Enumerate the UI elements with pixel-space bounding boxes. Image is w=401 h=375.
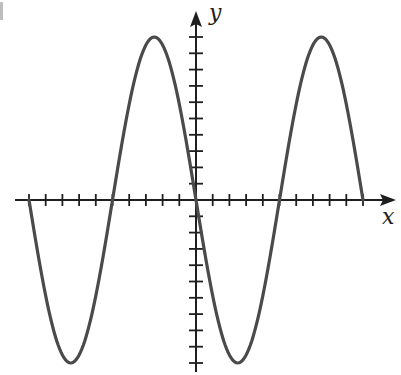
x-axis-label: x: [382, 204, 395, 229]
y-axis-label: y: [208, 0, 222, 25]
sine-chart: x y: [0, 0, 401, 375]
